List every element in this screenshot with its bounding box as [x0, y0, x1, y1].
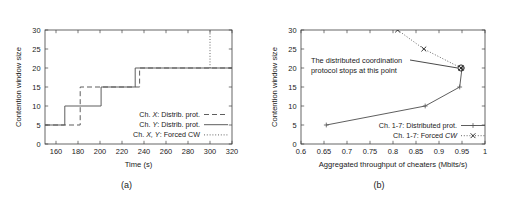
x-tick-label: 0.6 — [296, 147, 306, 156]
plot-b: 0.60.650.70.750.80.850.90.95105101520253… — [253, 0, 505, 180]
data-layer — [324, 28, 465, 128]
y-tick-label: 30 — [32, 26, 40, 35]
y-tick-label: 15 — [288, 83, 296, 92]
y-tick-label: 5 — [36, 121, 40, 130]
y-tick-label: 0 — [292, 140, 296, 149]
x-tick-label: 0.65 — [317, 147, 331, 156]
legend-text: Ch. — [133, 130, 146, 139]
x-tick-label: 180 — [72, 147, 84, 156]
y-tick-label: 25 — [288, 45, 296, 54]
caption-a: (a) — [0, 180, 253, 190]
legend-label-2: Ch. X, Y: Forced CW — [133, 130, 200, 139]
legend-text: Ch. 1-7: Forced — [393, 131, 445, 140]
x-tick-label: 240 — [138, 147, 150, 156]
figure-container: 160180200220240260280300320051015202530T… — [0, 0, 505, 204]
y-tick-label: 10 — [32, 102, 40, 111]
x-tick-label: 0.95 — [455, 147, 469, 156]
legend-text: : Distrib. prot. — [157, 110, 200, 119]
legend-label-1: Ch. Y: Distrib. prot. — [139, 120, 200, 129]
legend-label-1: Ch. 1-7: Forced CW — [393, 131, 458, 140]
annotation-leader-line — [410, 60, 458, 68]
legend-label-0: Ch. 1-7: Distributed prot. — [379, 121, 457, 130]
y-tick-label: 10 — [288, 102, 296, 111]
legend-text: Ch. 1-7: Distributed prot. — [379, 121, 457, 130]
x-axis-title: Aggregated throughput of cheaters (Mbits… — [319, 160, 468, 169]
legend-text: Ch. — [139, 110, 152, 119]
x-tick-label: 320 — [226, 147, 238, 156]
y-tick-label: 20 — [32, 64, 40, 73]
annotation-line-1: The distributed coordination — [311, 56, 402, 65]
legend-text: : Distrib. prot. — [157, 120, 200, 129]
series-line-1 — [398, 30, 461, 68]
x-tick-label: 220 — [116, 147, 128, 156]
y-tick-label: 0 — [36, 140, 40, 149]
x-tick-label: 280 — [182, 147, 194, 156]
x-tick-label: 200 — [94, 147, 106, 156]
annotation-line-2: protocol stops at this point — [311, 66, 397, 75]
legend-label-0: Ch. X: Distrib. prot. — [139, 110, 200, 119]
series-line-0 — [326, 68, 462, 125]
plot-a: 160180200220240260280300320051015202530T… — [0, 0, 253, 180]
x-tick-label: 1 — [483, 147, 487, 156]
y-axis-title: Contention window size — [270, 47, 279, 127]
y-tick-label: 25 — [32, 45, 40, 54]
caption-b: (b) — [253, 180, 505, 190]
x-tick-label: 0.75 — [363, 147, 377, 156]
legend-text: Ch. — [139, 120, 152, 129]
x-tick-label: 260 — [160, 147, 172, 156]
y-tick-label: 15 — [32, 83, 40, 92]
x-tick-label: 300 — [204, 147, 216, 156]
legend-text: : Forced CW — [160, 130, 201, 139]
legend-text-italic: CW — [445, 131, 458, 140]
y-tick-label: 20 — [288, 64, 296, 73]
legend-text-italic: X, Y — [145, 130, 161, 139]
chart-panel-a: 160180200220240260280300320051015202530T… — [0, 0, 253, 204]
x-tick-label: 0.7 — [342, 147, 352, 156]
x-tick-label: 0.85 — [409, 147, 423, 156]
chart-panel-b: 0.60.650.70.750.80.850.90.95105101520253… — [253, 0, 505, 204]
x-tick-label: 0.8 — [388, 147, 398, 156]
y-axis-title: Contention window size — [14, 47, 23, 127]
x-tick-label: 0.9 — [434, 147, 444, 156]
y-tick-label: 5 — [292, 121, 296, 130]
x-tick-label: 160 — [50, 147, 62, 156]
y-tick-label: 30 — [288, 26, 296, 35]
x-axis-title: Time (s) — [125, 160, 153, 169]
